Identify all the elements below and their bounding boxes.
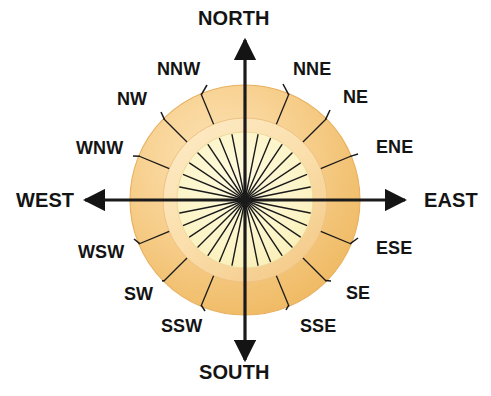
compass-rose-diagram: NORTHEASTSOUTHWESTNNENEENEESESESSESSWSWW… (0, 0, 491, 396)
label-wnw: WNW (76, 139, 123, 157)
label-east: EAST (424, 190, 478, 210)
label-ne: NE (343, 88, 368, 106)
label-sse: SSE (300, 317, 336, 335)
label-ene: ENE (376, 138, 413, 156)
label-wsw: WSW (78, 243, 124, 261)
label-se: SE (346, 284, 370, 302)
leader-nw (161, 112, 164, 119)
label-ssw: SSW (161, 317, 202, 335)
label-west: WEST (16, 190, 74, 210)
label-nne: NNE (293, 60, 331, 78)
leader-ne (326, 110, 330, 119)
label-nnw: NNW (157, 60, 200, 78)
label-north: NORTH (198, 8, 270, 28)
label-sw: SW (124, 285, 153, 303)
label-ese: ESE (376, 239, 412, 257)
label-south: SOUTH (199, 362, 270, 382)
label-nw: NW (117, 90, 147, 108)
